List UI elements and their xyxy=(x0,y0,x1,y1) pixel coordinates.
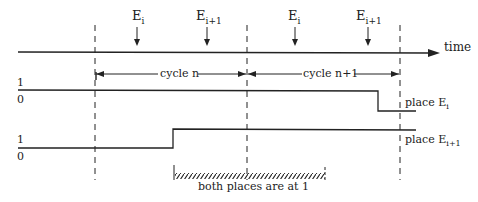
waveform xyxy=(18,129,416,148)
event-subscript: i xyxy=(298,16,301,26)
overlap-label: both places are at 1 xyxy=(198,180,309,193)
level-high-label: 1 xyxy=(17,76,24,89)
place-subscript: i xyxy=(446,102,449,111)
event-marker: Ei+1 xyxy=(196,8,222,46)
arrow-left-icon xyxy=(248,71,256,77)
event-subscript: i xyxy=(142,16,145,26)
svg-text:place Ei+1: place Ei+1 xyxy=(405,133,461,148)
cycle-label: cycle n xyxy=(160,67,199,80)
arrow-right-icon xyxy=(428,49,440,57)
level-low-label: 0 xyxy=(17,150,24,163)
level-high-label: 1 xyxy=(17,133,24,146)
svg-text:place Ei: place Ei xyxy=(405,96,449,111)
time-axis: time xyxy=(18,40,471,57)
arrow-right-icon xyxy=(238,71,246,77)
cycle-span-n: cycle n xyxy=(96,67,246,80)
event-label: E xyxy=(132,8,142,23)
event-subscript: i+1 xyxy=(206,16,222,26)
arrow-down-icon xyxy=(134,39,140,46)
waveform xyxy=(18,90,416,111)
place-subscript: i+1 xyxy=(446,139,460,148)
svg-text:Ei+1: Ei+1 xyxy=(196,8,222,26)
event-subscript: i+1 xyxy=(366,16,382,26)
arrow-left-icon xyxy=(96,71,104,77)
place-label: place E xyxy=(405,133,446,146)
place-label: place E xyxy=(405,96,446,109)
cycle-label: cycle n+1 xyxy=(303,67,358,80)
arrow-down-icon xyxy=(292,39,298,46)
svg-text:Ei+1: Ei+1 xyxy=(356,8,382,26)
arrow-down-icon xyxy=(204,39,210,46)
svg-text:Ei: Ei xyxy=(288,8,301,26)
arrow-down-icon xyxy=(365,39,371,46)
time-label: time xyxy=(444,40,471,54)
overlap-indicator: both places are at 1 xyxy=(174,165,325,193)
event-label: E xyxy=(356,8,366,23)
arrow-right-icon xyxy=(391,71,399,77)
signal-place-ei: 1 0 place Ei xyxy=(17,76,449,111)
hatched-bar xyxy=(175,173,325,179)
svg-text:Ei: Ei xyxy=(132,8,145,26)
event-label: E xyxy=(288,8,298,23)
timing-diagram: time Ei Ei+1 Ei Ei+1 xyxy=(0,0,478,202)
event-label: E xyxy=(196,8,206,23)
event-marker: Ei xyxy=(132,8,145,46)
cycle-boundaries xyxy=(95,25,400,180)
level-low-label: 0 xyxy=(17,93,24,106)
cycle-span-n-plus-1: cycle n+1 xyxy=(248,67,399,80)
signal-place-ei-plus-1: 1 0 place Ei+1 xyxy=(17,129,461,163)
event-markers: Ei Ei+1 Ei Ei+1 xyxy=(132,8,382,46)
event-marker: Ei+1 xyxy=(356,8,382,46)
event-marker: Ei xyxy=(288,8,301,46)
